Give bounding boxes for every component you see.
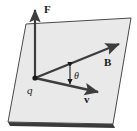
angle-theta-label: θ — [74, 70, 79, 81]
physics-vector-diagram: F B v q θ — [0, 0, 137, 131]
force-label: F — [44, 3, 51, 15]
charge-origin-dot — [32, 75, 37, 80]
diagram-canvas: F B v q θ — [0, 0, 137, 131]
velocity-label: v — [84, 93, 90, 105]
magnetic-field-label: B — [104, 56, 112, 68]
charge-label: q — [27, 84, 33, 96]
